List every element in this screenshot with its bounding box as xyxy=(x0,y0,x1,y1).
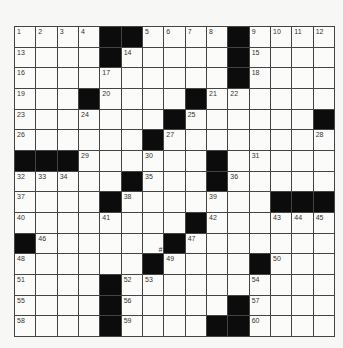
answer-cell[interactable]: 4 xyxy=(79,27,99,47)
answer-cell[interactable] xyxy=(100,234,120,254)
answer-cell[interactable] xyxy=(58,130,78,150)
answer-cell[interactable] xyxy=(314,254,334,274)
answer-cell[interactable]: 52 xyxy=(122,275,142,295)
answer-cell[interactable]: 58 xyxy=(15,316,35,336)
answer-cell[interactable] xyxy=(79,275,99,295)
answer-cell[interactable] xyxy=(186,296,206,316)
answer-cell[interactable]: 1 xyxy=(15,27,35,47)
answer-cell[interactable] xyxy=(186,316,206,336)
answer-cell[interactable] xyxy=(36,275,56,295)
answer-cell[interactable] xyxy=(228,213,248,233)
answer-cell[interactable]: 43 xyxy=(271,213,291,233)
answer-cell[interactable]: 59 xyxy=(122,316,142,336)
answer-cell[interactable] xyxy=(186,172,206,192)
answer-cell[interactable] xyxy=(164,172,184,192)
answer-cell[interactable] xyxy=(143,296,163,316)
answer-cell[interactable] xyxy=(207,130,227,150)
answer-cell[interactable]: 18 xyxy=(250,68,270,88)
answer-cell[interactable] xyxy=(58,89,78,109)
answer-cell[interactable] xyxy=(314,151,334,171)
answer-cell[interactable]: 9 xyxy=(250,27,270,47)
answer-cell[interactable] xyxy=(292,316,312,336)
answer-cell[interactable] xyxy=(292,296,312,316)
answer-cell[interactable]: 33 xyxy=(36,172,56,192)
answer-cell[interactable] xyxy=(164,316,184,336)
answer-cell[interactable] xyxy=(292,234,312,254)
answer-cell[interactable] xyxy=(164,89,184,109)
answer-cell[interactable] xyxy=(143,89,163,109)
answer-cell[interactable] xyxy=(36,89,56,109)
answer-cell[interactable]: 44 xyxy=(292,213,312,233)
answer-cell[interactable] xyxy=(207,110,227,130)
answer-cell[interactable]: 24 xyxy=(79,110,99,130)
answer-cell[interactable] xyxy=(143,316,163,336)
answer-cell[interactable] xyxy=(271,316,291,336)
answer-cell[interactable]: 38 xyxy=(122,192,142,212)
answer-cell[interactable] xyxy=(100,151,120,171)
answer-cell[interactable] xyxy=(164,68,184,88)
answer-cell[interactable] xyxy=(314,48,334,68)
answer-cell[interactable]: 5 xyxy=(143,27,163,47)
answer-cell[interactable] xyxy=(314,234,334,254)
answer-cell[interactable] xyxy=(228,275,248,295)
answer-cell[interactable] xyxy=(250,172,270,192)
answer-cell[interactable]: 15 xyxy=(250,48,270,68)
answer-cell[interactable] xyxy=(228,151,248,171)
answer-cell[interactable] xyxy=(314,172,334,192)
answer-cell[interactable]: 46 xyxy=(36,234,56,254)
answer-cell[interactable] xyxy=(186,130,206,150)
answer-cell[interactable] xyxy=(79,68,99,88)
answer-cell[interactable]: 32 xyxy=(15,172,35,192)
answer-cell[interactable] xyxy=(250,89,270,109)
answer-cell[interactable] xyxy=(271,48,291,68)
answer-cell[interactable] xyxy=(58,316,78,336)
answer-cell[interactable] xyxy=(292,172,312,192)
answer-cell[interactable] xyxy=(100,130,120,150)
answer-cell[interactable] xyxy=(292,275,312,295)
answer-cell[interactable] xyxy=(143,48,163,68)
answer-cell[interactable] xyxy=(164,151,184,171)
answer-cell[interactable] xyxy=(250,130,270,150)
answer-cell[interactable]: 31 xyxy=(250,151,270,171)
answer-cell[interactable] xyxy=(314,316,334,336)
answer-cell[interactable]: 42 xyxy=(207,213,227,233)
answer-cell[interactable] xyxy=(79,296,99,316)
answer-cell[interactable] xyxy=(186,68,206,88)
answer-cell[interactable] xyxy=(271,151,291,171)
answer-cell[interactable]: 26 xyxy=(15,130,35,150)
answer-cell[interactable]: 28 xyxy=(314,130,334,150)
answer-cell[interactable] xyxy=(250,234,270,254)
answer-cell[interactable] xyxy=(143,68,163,88)
answer-cell[interactable] xyxy=(164,213,184,233)
answer-cell[interactable] xyxy=(207,48,227,68)
answer-cell[interactable] xyxy=(164,192,184,212)
answer-cell[interactable] xyxy=(79,254,99,274)
answer-cell[interactable] xyxy=(164,296,184,316)
answer-cell[interactable]: 25 xyxy=(186,110,206,130)
answer-cell[interactable] xyxy=(58,296,78,316)
answer-cell[interactable]: 48 xyxy=(15,254,35,274)
answer-cell[interactable] xyxy=(36,316,56,336)
answer-cell[interactable] xyxy=(58,254,78,274)
answer-cell[interactable] xyxy=(186,151,206,171)
answer-cell[interactable] xyxy=(122,213,142,233)
answer-cell[interactable]: 19 xyxy=(15,89,35,109)
answer-cell[interactable] xyxy=(271,275,291,295)
answer-cell[interactable] xyxy=(164,275,184,295)
answer-cell[interactable]: 55 xyxy=(15,296,35,316)
answer-cell[interactable] xyxy=(79,213,99,233)
answer-cell[interactable]: 8 xyxy=(207,27,227,47)
answer-cell[interactable]: 37 xyxy=(15,192,35,212)
answer-cell[interactable]: 13 xyxy=(15,48,35,68)
answer-cell[interactable]: 45 xyxy=(314,213,334,233)
answer-cell[interactable] xyxy=(122,254,142,274)
answer-cell[interactable] xyxy=(228,110,248,130)
answer-cell[interactable] xyxy=(79,48,99,68)
answer-cell[interactable]: 57 xyxy=(250,296,270,316)
answer-cell[interactable]: 53 xyxy=(143,275,163,295)
answer-cell[interactable]: 47 xyxy=(186,234,206,254)
answer-cell[interactable] xyxy=(250,213,270,233)
answer-cell[interactable] xyxy=(271,172,291,192)
answer-cell[interactable]: 3 xyxy=(58,27,78,47)
answer-cell[interactable] xyxy=(314,68,334,88)
